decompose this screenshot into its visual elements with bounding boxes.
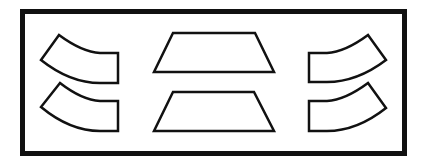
right-top-curved-tile	[309, 35, 386, 82]
right-bottom-curved-tile	[309, 83, 386, 131]
center-top-trapezoid	[154, 33, 274, 72]
diagram-svg	[0, 0, 428, 167]
left-bottom-curved-tile	[41, 83, 118, 131]
center-bottom-trapezoid	[154, 92, 274, 131]
diagram-canvas	[0, 0, 428, 167]
shape-group	[41, 33, 386, 131]
left-top-curved-tile	[41, 35, 118, 83]
